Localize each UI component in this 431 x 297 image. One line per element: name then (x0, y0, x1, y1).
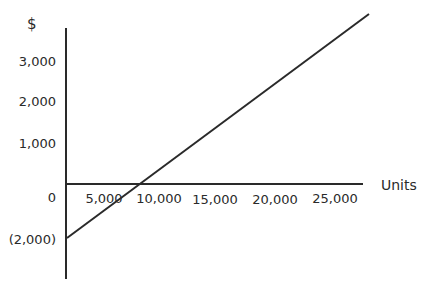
x-tick-25000: 25,000 (312, 192, 358, 205)
x-tick-5000: 5,000 (85, 192, 122, 205)
chart-plot (0, 0, 431, 297)
y-tick-neg2000: (2,000) (0, 233, 56, 246)
x-tick-15000: 15,000 (192, 193, 238, 206)
x-tick-20000: 20,000 (252, 193, 298, 206)
y-tick-3000: 3,000 (0, 55, 56, 68)
x-axis-title: Units (381, 178, 417, 192)
y-tick-0: 0 (0, 191, 56, 204)
y-tick-1000: 1,000 (0, 137, 56, 150)
y-axis-title: $ (27, 17, 37, 32)
x-tick-10000: 10,000 (136, 192, 182, 205)
y-tick-2000: 2,000 (0, 95, 56, 108)
